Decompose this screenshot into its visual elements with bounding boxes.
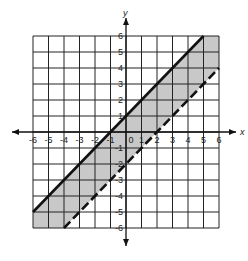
y-tick-label: 2 bbox=[118, 95, 123, 105]
x-tick-label: -5 bbox=[44, 135, 52, 145]
x-axis-label: x bbox=[239, 127, 245, 137]
x-tick-label: 1 bbox=[139, 135, 144, 145]
x-tick-label: -3 bbox=[75, 135, 83, 145]
x-tick-label: -1 bbox=[106, 135, 114, 145]
y-tick-label: -5 bbox=[115, 207, 123, 217]
x-tick-label: 6 bbox=[216, 135, 221, 145]
x-axis-arrow-left-icon bbox=[12, 129, 19, 135]
y-tick-label: 4 bbox=[118, 63, 123, 73]
y-axis-arrow-up-icon bbox=[123, 18, 129, 25]
x-tick-label: 3 bbox=[170, 135, 175, 145]
y-tick-label: 5 bbox=[118, 47, 123, 57]
x-tick-label: -6 bbox=[29, 135, 37, 145]
y-axis-arrow-down-icon bbox=[123, 239, 129, 246]
y-tick-label: -1 bbox=[115, 143, 123, 153]
x-tick-label: -4 bbox=[60, 135, 68, 145]
y-tick-label: -2 bbox=[115, 159, 123, 169]
x-tick-label: 5 bbox=[201, 135, 206, 145]
y-axis-label: y bbox=[122, 8, 128, 18]
x-tick-label: 4 bbox=[185, 135, 190, 145]
y-tick-label: 3 bbox=[118, 79, 123, 89]
origin-label: 0 bbox=[128, 135, 133, 145]
coordinate-graph: -6-5-4-3-2-11234560654321-1-2-3-4-5-6xy bbox=[0, 0, 248, 261]
y-tick-label: -3 bbox=[115, 175, 123, 185]
y-tick-label: 1 bbox=[118, 111, 123, 121]
y-tick-label: 6 bbox=[118, 31, 123, 41]
y-tick-label: -4 bbox=[115, 191, 123, 201]
x-axis-arrow-right-icon bbox=[229, 129, 236, 135]
x-tick-label: -2 bbox=[91, 135, 99, 145]
y-tick-label: -6 bbox=[115, 223, 123, 233]
x-tick-label: 2 bbox=[154, 135, 159, 145]
